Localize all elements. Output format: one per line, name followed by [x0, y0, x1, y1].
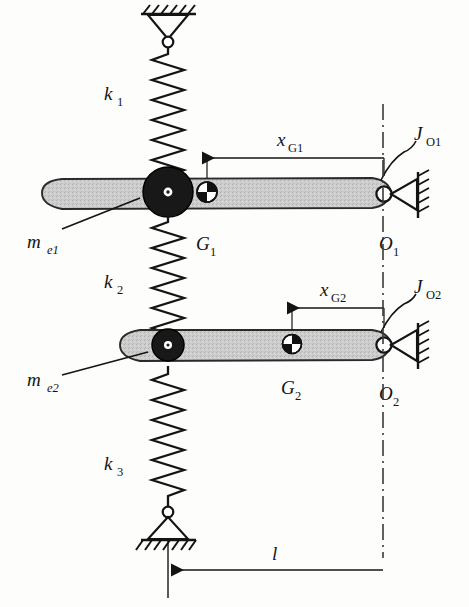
lower-ground-hatching — [136, 540, 196, 550]
svg-text:G: G — [196, 233, 210, 254]
svg-text:O1: O1 — [426, 135, 441, 149]
svg-text:O: O — [379, 383, 393, 404]
svg-text:k: k — [104, 453, 113, 474]
svg-text:x: x — [319, 279, 329, 300]
svg-text:G1: G1 — [288, 141, 303, 155]
svg-text:O: O — [379, 233, 393, 254]
lower-ground-support — [136, 507, 196, 550]
pivot-o2-triangle — [391, 330, 417, 361]
svg-text:1: 1 — [210, 245, 216, 259]
svg-text:J: J — [414, 123, 424, 144]
figure-canvas: k 1 m e1 G 1 — [0, 0, 469, 607]
jo2-leader-line — [381, 294, 416, 332]
label-g1: G 1 — [196, 233, 216, 259]
label-me1: m e1 — [27, 231, 59, 257]
mechanical-system-diagram: k 1 m e1 G 1 — [0, 0, 469, 607]
center-of-gravity-g2 — [283, 335, 302, 354]
label-g2: G 2 — [281, 377, 301, 403]
label-l: l — [272, 543, 277, 564]
svg-text:k: k — [104, 271, 113, 292]
label-k1: k 1 — [104, 83, 123, 109]
label-k2: k 2 — [104, 271, 123, 297]
svg-text:G: G — [281, 377, 295, 398]
dimension-xg2 — [288, 308, 384, 330]
svg-text:1: 1 — [117, 95, 123, 109]
pivot-o2 — [376, 321, 429, 369]
upper-support-triangle — [148, 15, 188, 39]
svg-text:m: m — [27, 231, 41, 252]
svg-text:e1: e1 — [47, 243, 59, 257]
center-of-gravity-g1 — [197, 182, 217, 202]
svg-text:2: 2 — [117, 283, 123, 297]
svg-text:l: l — [272, 543, 277, 564]
label-me2: m e2 — [27, 369, 59, 395]
dimension-xg1 — [203, 158, 384, 178]
svg-text:2: 2 — [393, 395, 399, 409]
pivot-o1-hatching — [418, 170, 429, 212]
label-xg1: x G1 — [276, 129, 303, 155]
me2-leader-line — [62, 352, 148, 375]
label-xg2: x G2 — [319, 279, 346, 305]
svg-text:k: k — [104, 83, 113, 104]
svg-text:2: 2 — [295, 389, 301, 403]
label-jo1: J O1 — [414, 123, 441, 149]
svg-text:m: m — [27, 369, 41, 390]
effective-mass-me2 — [152, 329, 184, 361]
upper-ground-support — [141, 5, 196, 47]
svg-text:O2: O2 — [426, 288, 441, 302]
lower-support-triangle — [148, 517, 188, 539]
upper-ground-hatching — [143, 5, 195, 14]
spring-k2 — [152, 214, 184, 344]
label-o1: O 1 — [379, 233, 399, 259]
svg-text:e2: e2 — [47, 381, 59, 395]
upper-pin-joint — [163, 37, 174, 48]
svg-text:3: 3 — [117, 465, 123, 479]
svg-text:x: x — [276, 129, 286, 150]
pivot-o2-hatching — [418, 321, 429, 363]
spring-k3 — [152, 366, 184, 506]
pivot-o1-triangle — [391, 179, 417, 210]
label-jo2: J O2 — [414, 276, 441, 302]
svg-text:G2: G2 — [331, 291, 346, 305]
label-o2: O 2 — [379, 383, 399, 409]
svg-text:1: 1 — [393, 245, 399, 259]
effective-mass-me1 — [143, 167, 193, 217]
jo1-leader-line — [381, 141, 416, 180]
label-k3: k 3 — [104, 453, 123, 479]
pivot-o1 — [376, 170, 429, 218]
svg-text:J: J — [414, 276, 424, 297]
